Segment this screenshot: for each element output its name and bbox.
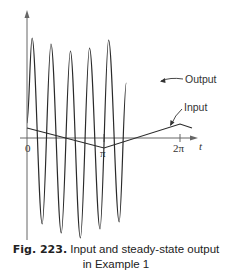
tick-label-pi: π [100,147,106,159]
t-axis-arrow-icon [190,136,198,141]
t-axis-label: t [199,140,203,152]
input-label: Input [184,101,207,113]
y-axis-arrow-icon [25,10,30,18]
arrowhead-icon [170,120,175,126]
figure-number: Fig. 223. [13,243,67,256]
output-annotation: Output [160,73,217,85]
t-axis: 0 π 2π t [20,134,203,159]
chart-plot: 0 π 2π t Output Input [0,0,232,244]
output-label: Output [185,73,217,85]
tick-label-0: 0 [25,142,31,154]
input-curve [27,124,192,148]
y-axis [25,10,30,240]
tick-label-2pi: 2π [173,142,185,154]
input-annotation: Input [170,101,207,126]
arrowhead-icon [160,78,166,83]
caption-line-2: in Example 1 [0,257,232,271]
figure-caption: Fig. 223. Input and steady-state output … [0,242,232,271]
caption-line-1: Input and steady-state output [70,243,219,255]
